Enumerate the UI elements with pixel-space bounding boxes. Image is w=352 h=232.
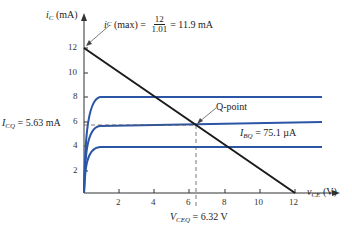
icmax-annotation: iC (max) = 12 1.01 = 11.9 mA: [104, 15, 213, 34]
y-tick-label: 2: [73, 166, 78, 175]
characteristic-curves: [84, 97, 322, 193]
x-tick-label: 4: [151, 198, 156, 207]
curve-upper: [84, 97, 322, 193]
vceq-label: VCEQ = 6.32 V: [170, 212, 228, 224]
y-tick-label: 4: [73, 141, 78, 150]
icq-label: ICQ = 5.63 mA: [2, 118, 61, 130]
y-tick-label: 10: [68, 68, 77, 77]
x-tick-label: 12: [289, 198, 298, 207]
qpoint-label: Q-point: [216, 102, 247, 112]
y-axis-arrow-icon: [81, 13, 87, 21]
x-axis-label: vCE (V): [307, 187, 337, 199]
x-tick-label: 8: [222, 198, 227, 207]
x-tick-label: 6: [186, 198, 191, 207]
y-tick-label: 6: [73, 117, 78, 126]
y-axis-label: iC (mA): [46, 10, 78, 22]
qpoint-arrow-icon: [197, 118, 203, 124]
x-tick-label: 2: [116, 198, 121, 207]
y-tick-label: 12: [68, 43, 77, 52]
ibq-label: IBQ = 75.1 µA: [240, 128, 296, 140]
x-tick-label: 10: [254, 198, 263, 207]
y-tick-label: 8: [73, 92, 78, 101]
x-ticks: [119, 189, 295, 193]
load-line: [84, 48, 295, 193]
chart-canvas: [0, 0, 352, 232]
